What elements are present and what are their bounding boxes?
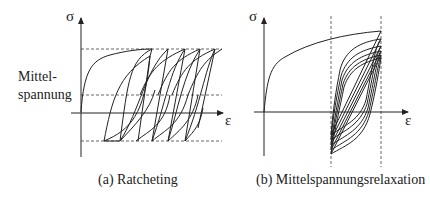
sigma-axis-label-b: σ bbox=[249, 8, 257, 25]
hysteresis-loops-b bbox=[331, 31, 381, 154]
mean-stress-label-line1: Mittel- bbox=[18, 68, 57, 86]
epsilon-axis-label-b: ε bbox=[405, 112, 411, 129]
mean-stress-label-line2: spannung bbox=[18, 86, 72, 104]
caption-b: (b) Mittelspannungsrelaxation bbox=[256, 172, 425, 188]
caption-a: (a) Ratcheting bbox=[98, 172, 178, 188]
panel-b-relaxation bbox=[254, 16, 408, 167]
epsilon-axis-label-a: ε bbox=[225, 112, 231, 129]
sigma-axis-label-a: σ bbox=[66, 8, 74, 25]
panel-a-ratcheting bbox=[71, 18, 223, 157]
